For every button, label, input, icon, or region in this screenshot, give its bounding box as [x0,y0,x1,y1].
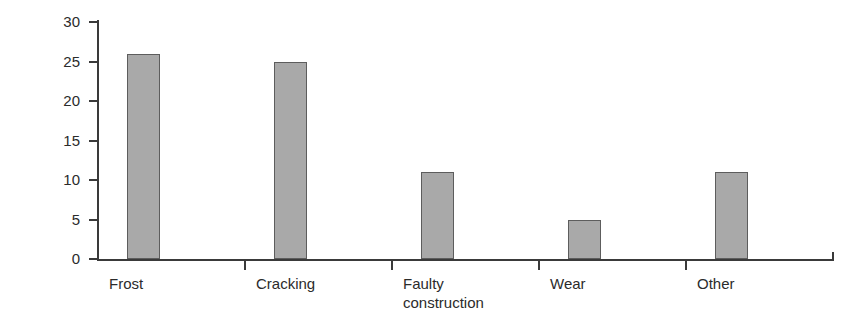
y-axis-tick-label: 10 [46,172,80,187]
y-axis-tick-label-wrap: 20 [46,93,80,108]
x-axis-category-label: Frost [109,275,143,294]
y-axis-tick [89,100,97,102]
y-axis-tick-label-wrap: 30 [46,14,80,29]
y-axis-tick-label: 30 [46,14,80,29]
y-axis-tick-label-wrap: 25 [46,54,80,69]
x-axis-tick [244,261,246,270]
y-axis-tick [89,21,97,23]
bar [274,62,307,260]
y-axis-tick [89,140,97,142]
y-axis-tick-label: 25 [46,54,80,69]
y-axis-tick [89,61,97,63]
x-axis-tick [391,261,393,270]
y-axis-tick-label-wrap: 10 [46,172,80,187]
bar [421,172,454,259]
y-axis-tick-label: 5 [46,212,80,227]
x-axis-tick [538,261,540,270]
bar [127,54,160,259]
y-axis-tick-label-wrap: 15 [46,133,80,148]
bar [715,172,748,259]
x-axis-line [97,259,834,261]
y-axis-tick-label: 0 [46,251,80,266]
y-axis-tick-label: 15 [46,133,80,148]
y-axis-tick-label-wrap: 0 [46,251,80,266]
x-axis-tick [685,261,687,270]
y-axis-tick [89,179,97,181]
x-axis-end-tick [832,252,834,261]
x-axis-category-label: Faulty construction [403,275,484,313]
x-axis-category-label: Cracking [256,275,315,294]
bar-chart: Number 051015202530FrostCrackingFaulty c… [0,0,865,335]
y-axis-tick [89,258,97,260]
y-axis-tick [89,219,97,221]
y-axis-tick-label-wrap: 5 [46,212,80,227]
y-axis-tick-label: 20 [46,93,80,108]
y-axis-line [97,20,99,261]
bar [568,220,601,260]
x-axis-category-label: Wear [550,275,586,294]
x-axis-category-label: Other [697,275,735,294]
